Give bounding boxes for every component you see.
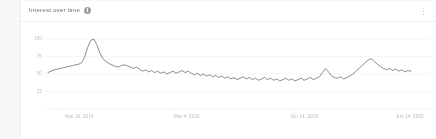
kebab-dot xyxy=(423,8,425,10)
card-header: Interest over time xyxy=(21,1,436,22)
kebab-dot xyxy=(423,11,425,13)
chart-plot-area: 100755025 Nov 16, 2014Mar 4, 2016Oct 14,… xyxy=(21,22,436,138)
y-axis-tick-label: 75 xyxy=(26,54,42,59)
more-vertical-icon[interactable] xyxy=(419,5,428,18)
page-title: Interest over time xyxy=(29,6,80,14)
kebab-dot xyxy=(423,14,425,16)
y-axis-tick-label: 50 xyxy=(26,71,42,76)
x-axis-tick-label: Jun 14, 2020 xyxy=(396,114,424,119)
info-circle-icon[interactable] xyxy=(84,7,91,14)
x-axis-tick-label: Mar 4, 2016 xyxy=(174,114,200,119)
data-line-interest[interactable] xyxy=(48,39,411,81)
x-axis-tick-label: Oct 14, 2018 xyxy=(291,114,319,119)
trends-chart-screen: Interest over time 100755025 Nov 16, 201… xyxy=(0,0,436,139)
x-axis-tick-label: Nov 16, 2014 xyxy=(65,114,94,119)
interest-over-time-card: Interest over time 100755025 Nov 16, 201… xyxy=(20,1,435,138)
y-axis-tick-label: 25 xyxy=(26,89,42,94)
y-axis-tick-label: 100 xyxy=(26,36,42,41)
line-chart[interactable] xyxy=(21,22,436,138)
card-title-group: Interest over time xyxy=(29,6,91,14)
